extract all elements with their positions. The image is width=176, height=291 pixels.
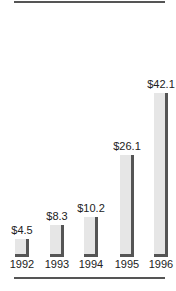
value-label-1996: $42.1 — [141, 78, 176, 90]
category-label-1995: 1995 — [109, 258, 145, 270]
category-label-1993: 1993 — [39, 258, 75, 270]
category-label-1996: 1996 — [143, 258, 176, 270]
category-label-1992: 1992 — [4, 258, 40, 270]
bar-1996 — [154, 93, 168, 257]
category-label-1994: 1994 — [73, 258, 109, 270]
top-rule — [14, 1, 165, 3]
bar-1993 — [50, 225, 64, 257]
value-label-1995: $26.1 — [107, 140, 147, 152]
bottom-rule — [14, 277, 165, 279]
value-label-1994: $10.2 — [71, 202, 111, 214]
value-label-1992: $4.5 — [2, 224, 42, 236]
bar-1992 — [15, 239, 29, 257]
bar-1994 — [84, 217, 98, 257]
bar-1995 — [120, 155, 134, 257]
